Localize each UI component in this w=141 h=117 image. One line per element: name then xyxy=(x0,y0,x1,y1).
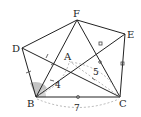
vertex-label-c: C xyxy=(119,98,127,109)
length-label-bc: 7 xyxy=(74,103,80,113)
length-label-ac: 5 xyxy=(93,67,99,77)
square-mark-fe xyxy=(99,42,102,45)
segment-be xyxy=(36,34,125,97)
vertex-label-b: B xyxy=(27,98,34,109)
vertex-label-a: A xyxy=(63,51,72,62)
tick-mark-ba xyxy=(50,80,54,81)
tick-mark-da xyxy=(46,54,48,58)
vertex-label-f: F xyxy=(73,8,80,19)
segment-df xyxy=(22,20,77,48)
vertex-label-e: E xyxy=(127,29,134,40)
length-label-ab: 4 xyxy=(55,80,61,90)
segment-db xyxy=(22,48,36,97)
vertex-label-d: D xyxy=(12,43,20,54)
geometry-diagram: F E D A B C 4 5 7 xyxy=(0,0,141,117)
segment-ec xyxy=(120,34,125,97)
